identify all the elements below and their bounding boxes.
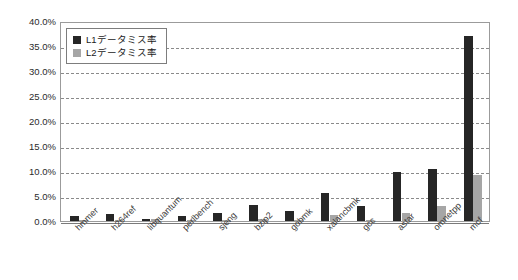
bar-group [204, 23, 240, 221]
y-axis-tick-label: 40.0% [2, 17, 56, 27]
bar-group [276, 23, 312, 221]
bar-l1 [357, 206, 366, 222]
bar-group [312, 23, 348, 221]
y-axis-tick-label: 30.0% [2, 67, 56, 77]
bar-group [348, 23, 384, 221]
y-axis: 0.0%5.0%10.0%15.0%20.0%25.0%30.0%35.0%40… [0, 22, 56, 222]
bar-l1 [321, 193, 330, 221]
legend-label: L1データミス率 [86, 35, 157, 45]
bar-group [419, 23, 455, 221]
bar-l1 [428, 169, 437, 222]
bar-l1 [249, 205, 258, 222]
bar-group [169, 23, 205, 221]
y-axis-tick-label: 25.0% [2, 92, 56, 102]
legend-swatch-l1 [73, 36, 81, 44]
legend-item: L1データミス率 [73, 33, 157, 46]
legend-item: L2データミス率 [73, 46, 157, 59]
bar-chart: 0.0%5.0%10.0%15.0%20.0%25.0%30.0%35.0%40… [0, 0, 518, 280]
legend-label: L2データミス率 [86, 48, 157, 58]
y-axis-tick-label: 35.0% [2, 42, 56, 52]
bar-l1 [393, 172, 402, 221]
legend-swatch-l2 [73, 49, 81, 57]
x-axis: hmmerh264reflibquantumperlbenchsjengbzip… [60, 224, 490, 280]
y-axis-tick-label: 5.0% [2, 192, 56, 202]
bar-group [455, 23, 491, 221]
y-axis-tick-label: 20.0% [2, 117, 56, 127]
bar-group [240, 23, 276, 221]
y-axis-tick-label: 10.0% [2, 167, 56, 177]
y-axis-tick-label: 15.0% [2, 142, 56, 152]
bar-group [384, 23, 420, 221]
bar-l1 [464, 36, 473, 221]
y-axis-tick-label: 0.0% [2, 217, 56, 227]
legend: L1データミス率L2データミス率 [66, 28, 167, 64]
plot-area: L1データミス率L2データミス率 [60, 22, 490, 222]
